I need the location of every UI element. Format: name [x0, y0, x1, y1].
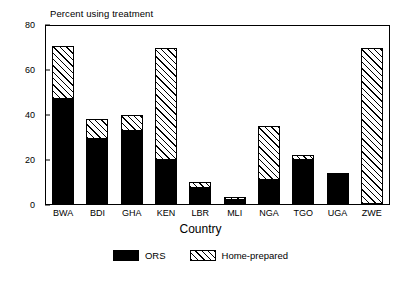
bar-segment-home-prepared: [258, 126, 280, 179]
bar-segment-home-prepared: [189, 182, 211, 189]
legend-swatch-ors-icon: [113, 250, 139, 261]
bar-segment-home-prepared: [224, 197, 246, 199]
legend-label-home-prepared: Home-prepared: [222, 250, 289, 261]
legend-item-home-prepared: Home-prepared: [190, 250, 289, 261]
y-tick-label: 60: [25, 66, 35, 75]
bar-chart-figure: Percent using treatment 0 20 40 60 80 BW…: [0, 0, 401, 283]
legend-swatch-home-prepared-icon: [190, 250, 216, 261]
bar-segment-ors: [155, 160, 177, 205]
x-axis-title: Country: [0, 222, 401, 236]
legend-item-ors: ORS: [113, 250, 166, 261]
bar-segment-ors: [86, 139, 108, 204]
bar-segment-home-prepared: [52, 46, 74, 99]
bar-segment-home-prepared: [292, 155, 314, 159]
x-tick-label: ZWE: [352, 208, 392, 218]
y-tick-label: 20: [25, 156, 35, 165]
bar-segment-ors: [121, 131, 143, 204]
y-tick-label: 0: [30, 201, 35, 210]
bar-segment-ors: [327, 175, 349, 204]
bar-segment-home-prepared: [327, 173, 349, 175]
bar-segment-home-prepared: [86, 119, 108, 139]
y-tick-label: 40: [25, 111, 35, 120]
legend-label-ors: ORS: [145, 250, 166, 261]
y-tick-mark: [45, 205, 50, 206]
bar-segment-ors: [224, 200, 246, 204]
chart-title: Percent using treatment: [50, 8, 153, 19]
bar-segment-ors: [52, 99, 74, 204]
bar-segment-ors: [292, 160, 314, 205]
bar-segment-home-prepared: [155, 48, 177, 159]
bar-segment-home-prepared: [361, 48, 383, 204]
bar-segment-ors: [189, 188, 211, 204]
chart-legend: ORS Home-prepared: [0, 250, 401, 261]
y-tick-label: 80: [25, 21, 35, 30]
x-axis-labels: BWABDIGHAKENLBRMLINGATGOUGAZWE: [46, 208, 389, 222]
y-axis: 0 20 40 60 80: [0, 25, 40, 205]
bars-layer: [46, 26, 389, 204]
bar-segment-home-prepared: [121, 115, 143, 131]
bar-segment-ors: [258, 180, 280, 204]
